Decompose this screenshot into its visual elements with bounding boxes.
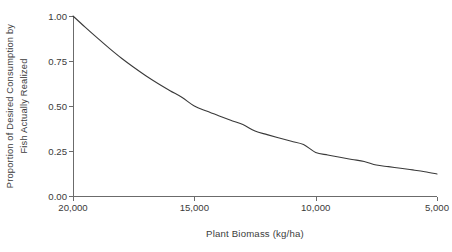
- x-tick-label: 20,000: [58, 202, 87, 213]
- y-tick-label: 0.75: [37, 56, 67, 67]
- x-tick-label: 10,000: [301, 202, 330, 213]
- y-tick-label: 0.25: [37, 146, 67, 157]
- x-axis-title: Plant Biomass (kg/ha): [73, 228, 437, 239]
- x-axis-tick-marks: [74, 197, 438, 201]
- y-axis-tick-marks: [69, 17, 73, 197]
- x-axis-tick-labels: 20,00015,00010,0005,000: [73, 202, 437, 218]
- y-axis-title-line-2: Fish Actually Realized: [17, 24, 31, 188]
- y-axis-title-line-1: Proportion of Desired Consumption by: [4, 24, 18, 188]
- y-axis-tick-labels: 0.000.250.500.751.00: [36, 16, 67, 196]
- y-tick-label: 1.00: [37, 11, 67, 22]
- plot-area: [73, 16, 437, 196]
- y-axis-title: Proportion of Desired Consumption by Fis…: [0, 0, 34, 212]
- chart-screenshot: Proportion of Desired Consumption by Fis…: [0, 0, 452, 252]
- y-tick-label: 0.50: [37, 101, 67, 112]
- y-tick-label: 0.00: [37, 191, 67, 202]
- x-tick-label: 5,000: [425, 202, 449, 213]
- x-tick-label: 15,000: [180, 202, 209, 213]
- data-series-line: [73, 16, 437, 174]
- chart-svg: [73, 16, 437, 196]
